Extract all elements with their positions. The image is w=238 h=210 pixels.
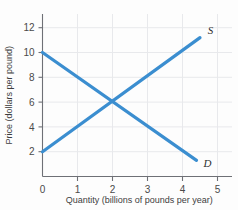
y-tick-label: 8 xyxy=(29,72,35,83)
y-tick-label: 10 xyxy=(23,47,35,58)
curve-labels-group: DS xyxy=(203,24,214,169)
curves-group xyxy=(43,38,201,161)
y-tick-label: 12 xyxy=(23,22,35,33)
curve-label-d: D xyxy=(203,157,212,169)
y-tick-label: 2 xyxy=(29,146,35,157)
y-tick-label: 6 xyxy=(29,97,35,108)
x-tick-label: 4 xyxy=(180,184,186,195)
x-axis-title: Quantity (billions of pounds per year) xyxy=(66,195,213,205)
curve-label-s: S xyxy=(208,24,214,36)
y-tick-labels-group: 24681012 xyxy=(23,22,35,157)
x-tick-label: 1 xyxy=(75,184,81,195)
chart-canvas: 012345 24681012 DS Quantity (billions of… xyxy=(0,0,238,210)
x-tick-label: 0 xyxy=(40,184,46,195)
x-tick-labels-group: 012345 xyxy=(40,184,221,195)
curve-s xyxy=(43,38,201,152)
x-tick-label: 5 xyxy=(215,184,221,195)
curve-d xyxy=(43,53,197,161)
y-axis-title: Price (dollars per pound) xyxy=(4,46,14,145)
gridlines-group xyxy=(43,14,233,177)
x-tick-label: 3 xyxy=(145,184,151,195)
supply-demand-chart: 012345 24681012 DS Quantity (billions of… xyxy=(0,0,238,210)
y-tick-label: 4 xyxy=(29,122,35,133)
x-tick-label: 2 xyxy=(110,184,116,195)
